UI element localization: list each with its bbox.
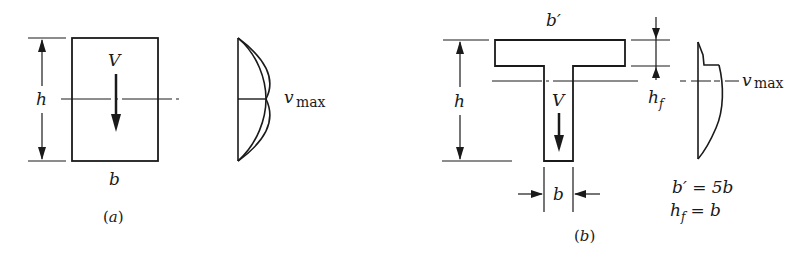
height-label: h (454, 91, 465, 111)
svg-text:= b: = b (685, 200, 721, 220)
arrow-up-icon (38, 39, 46, 52)
force-label: V (552, 90, 566, 110)
flange-width-label: b′ (546, 10, 561, 30)
caption-a: (a) (103, 208, 124, 226)
force-label: V (108, 50, 122, 70)
arrow-down-icon (38, 147, 46, 160)
arrow-up-icon (652, 67, 660, 78)
arrow-down-icon (652, 28, 660, 39)
figure-b: b′ h V b (442, 10, 784, 245)
shear-force-arrow-icon (111, 114, 121, 132)
flange-thickness-subscript: f (658, 97, 666, 111)
arrow-up-icon (456, 41, 464, 54)
flange-thickness-dimension: h f (631, 17, 670, 111)
arrow-down-icon (456, 147, 464, 160)
figure-a: h V b v max (a) (28, 38, 326, 226)
shear-force-arrow-icon (554, 135, 564, 152)
vmax-subscript: max (754, 75, 784, 91)
flange-thickness-label: h (648, 87, 659, 107)
vmax-label: v (284, 87, 294, 107)
vmax-label: v (742, 70, 752, 90)
caption-b: (b) (574, 227, 595, 245)
web-width-dimension: b (518, 167, 600, 212)
svg-text:h: h (670, 200, 681, 220)
web-width-label: b (553, 184, 564, 204)
equation-flange-width: b′ = 5b (672, 177, 734, 197)
height-label: h (36, 89, 47, 109)
arrow-left-icon (574, 190, 586, 198)
equation-flange-thickness: h f = b (670, 200, 721, 224)
shear-stress-diagram: h V b v max (a) b′ (0, 0, 806, 262)
height-dimension: h (36, 39, 47, 160)
height-dimension-b: h (454, 41, 465, 160)
vmax-subscript: max (296, 94, 326, 110)
stress-distribution-b: v max (680, 42, 784, 159)
width-label: b (109, 169, 120, 189)
arrow-right-icon (531, 190, 543, 198)
stress-distribution-a: v max (238, 38, 326, 161)
